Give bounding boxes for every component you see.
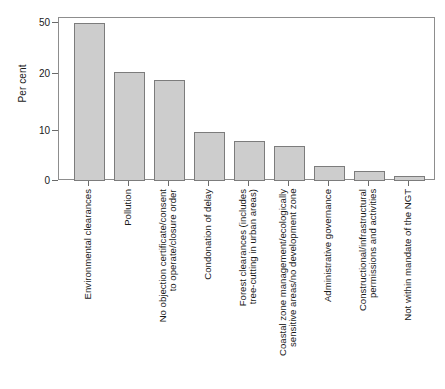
bar xyxy=(314,166,345,181)
bar xyxy=(154,80,185,181)
y-tick-mark xyxy=(52,180,58,181)
bar xyxy=(394,176,425,181)
y-tick-label: 10 xyxy=(39,125,50,136)
x-axis-label-line: tree-cutting in urban areas) xyxy=(248,189,258,306)
bar xyxy=(354,171,385,181)
x-tick-mark xyxy=(328,181,329,186)
bar xyxy=(194,132,225,181)
y-tick-label: 0 xyxy=(44,175,50,186)
x-axis-label-line: permissions and activities xyxy=(368,189,378,311)
x-axis-label-line: Pollution xyxy=(123,189,133,226)
x-axis-label-line: Coastal zone management/ecologically xyxy=(278,189,288,356)
x-tick-mark xyxy=(408,181,409,186)
x-tick-mark xyxy=(248,181,249,186)
plot-area xyxy=(58,17,435,180)
bar xyxy=(74,23,105,181)
x-axis-label: Environmental clearances xyxy=(83,189,93,299)
x-axis-label-line: Constructional/infrastructural xyxy=(358,189,368,311)
x-axis-label: Condonation of delay xyxy=(203,189,213,280)
x-axis-label-line: Administrative governance xyxy=(323,189,333,302)
x-tick-mark xyxy=(88,181,89,186)
x-axis-label: Pollution xyxy=(123,189,133,226)
bar xyxy=(114,72,145,181)
y-axis-title: Per cent xyxy=(17,44,28,124)
x-tick-mark xyxy=(368,181,369,186)
x-axis-label-line: Forest clearances (includes xyxy=(238,189,248,306)
x-axis-label: Constructional/infrastructuralpermission… xyxy=(358,189,379,311)
x-axis-label-line: sensitive areas/no development zone xyxy=(288,189,298,356)
x-axis-label: Forest clearances (includestree-cutting … xyxy=(238,189,259,306)
x-axis-label: Administrative governance xyxy=(323,189,333,302)
x-tick-mark xyxy=(208,181,209,186)
bar xyxy=(234,141,265,181)
y-tick-label: 20 xyxy=(39,68,50,79)
x-axis-label-line: Not within mandate of the NGT xyxy=(403,189,413,321)
bar xyxy=(274,146,305,181)
x-axis-label-line: to operate/closure order xyxy=(168,189,178,322)
x-tick-mark xyxy=(168,181,169,186)
x-axis-label-line: Environmental clearances xyxy=(83,189,93,299)
y-tick-label: 50 xyxy=(39,17,50,28)
x-tick-mark xyxy=(128,181,129,186)
x-axis-label: Coastal zone management/ecologicallysens… xyxy=(278,189,299,356)
bar-chart-figure: Per cent 0102050 Environmental clearance… xyxy=(0,0,445,389)
x-axis-label-line: No objection certificate/consent xyxy=(158,189,168,322)
x-tick-mark xyxy=(288,181,289,186)
x-axis-label: Not within mandate of the NGT xyxy=(403,189,413,321)
x-axis-label: No objection certificate/consentto opera… xyxy=(158,189,179,322)
x-axis-label-line: Condonation of delay xyxy=(203,189,213,280)
